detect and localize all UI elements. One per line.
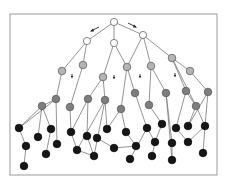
node-b4 [34, 133, 42, 141]
node-b15 [122, 128, 130, 136]
node-b14 [110, 144, 118, 152]
node-w2 [110, 39, 117, 46]
node-b27 [201, 122, 209, 130]
node-d7 [131, 89, 139, 97]
node-b23 [168, 156, 176, 164]
node-g6 [168, 54, 176, 62]
node-d12 [204, 88, 212, 96]
node-b6 [42, 150, 50, 158]
node-b24 [172, 124, 180, 132]
node-b8 [67, 128, 75, 136]
node-b18 [143, 124, 151, 132]
node-g2 [79, 61, 87, 69]
node-b5 [47, 125, 55, 133]
tree-graph [0, 0, 225, 185]
node-d4 [84, 95, 92, 103]
node-r [110, 18, 117, 25]
node-b20 [158, 120, 166, 128]
node-w1 [83, 37, 90, 44]
diagram-canvas [0, 0, 225, 185]
node-b26 [184, 138, 192, 146]
node-d6 [117, 105, 125, 113]
node-b3 [20, 162, 28, 170]
node-d3 [66, 103, 74, 111]
node-b9 [73, 146, 81, 154]
node-d10 [182, 87, 190, 95]
node-d9 [162, 89, 170, 97]
node-b17 [132, 142, 140, 150]
node-g3 [99, 73, 107, 81]
node-g1 [58, 67, 66, 75]
node-d11 [192, 102, 200, 110]
node-b7 [53, 140, 61, 148]
node-g4 [123, 63, 131, 71]
node-d2 [52, 95, 60, 103]
node-b1 [15, 124, 23, 132]
node-b12 [93, 134, 101, 142]
node-b28 [199, 149, 207, 157]
node-g5 [147, 62, 155, 70]
node-b25 [184, 122, 192, 130]
node-d5 [101, 96, 109, 104]
node-b11 [90, 152, 98, 160]
node-w3 [139, 31, 146, 38]
node-b2 [22, 142, 30, 150]
node-g7 [186, 67, 194, 75]
node-d1 [38, 102, 46, 110]
node-b13 [103, 125, 111, 133]
node-b19 [151, 138, 159, 146]
node-b10 [83, 132, 91, 140]
node-b16 [126, 155, 134, 163]
node-d8 [145, 101, 153, 109]
node-b22 [168, 139, 176, 147]
node-b21 [148, 152, 156, 160]
